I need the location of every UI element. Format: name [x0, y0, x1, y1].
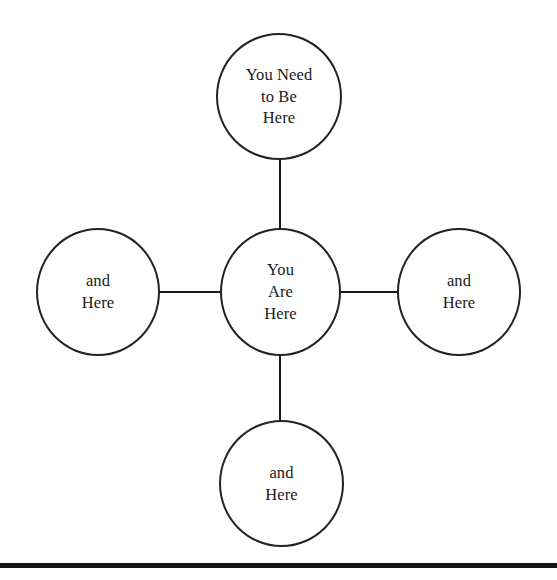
node-label-bottom: and Here — [265, 462, 297, 506]
node-label-left: and Here — [82, 270, 114, 314]
node-and-here-right: and Here — [397, 228, 521, 356]
node-and-here-left: and Here — [36, 228, 160, 356]
node-label-center: You Are Here — [264, 259, 296, 324]
footer-divider-rule — [0, 563, 557, 568]
diagram-canvas: You Need to Be Here and Here You Are Her… — [0, 0, 557, 580]
connector-center-to-top — [279, 156, 281, 232]
node-you-are-here: You Are Here — [220, 228, 341, 356]
node-you-need-to-be-here: You Need to Be Here — [216, 33, 342, 160]
node-and-here-bottom: and Here — [219, 420, 344, 547]
connector-center-to-left — [156, 291, 224, 293]
node-label-top: You Need to Be Here — [246, 64, 313, 129]
node-label-right: and Here — [443, 270, 475, 314]
connector-center-to-right — [337, 291, 401, 293]
connector-center-to-bottom — [279, 352, 281, 424]
